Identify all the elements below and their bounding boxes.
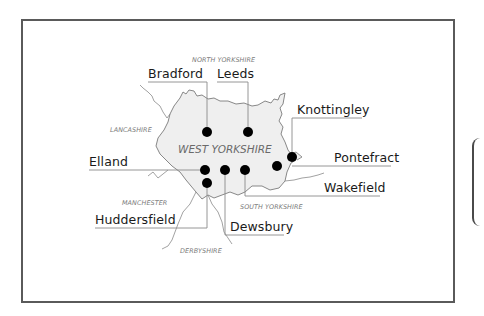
region-label-lancashire: LANCASHIRE (110, 126, 152, 134)
region-label-south-yorkshire: SOUTH YORKSHIRE (240, 203, 303, 211)
region-label-derbyshire: DERBYSHIRE (180, 247, 222, 255)
town-label-pontefract: Pontefract (334, 150, 399, 165)
region-label-manchester: MANCHESTER (122, 199, 167, 207)
town-label-bradford: Bradford (148, 66, 203, 81)
adjacent-panel-edge (472, 138, 484, 226)
town-label-leeds: Leeds (217, 66, 254, 81)
town-label-knottingley: Knottingley (297, 102, 370, 117)
town-label-wakefield: Wakefield (324, 180, 386, 195)
town-label-elland: Elland (89, 154, 128, 169)
town-label-huddersfield: Huddersfield (95, 212, 176, 227)
county-label-west-yorkshire: WEST YORKSHIRE (178, 143, 272, 155)
town-label-dewsbury: Dewsbury (230, 219, 293, 234)
region-label-north-yorkshire: NORTH YORKSHIRE (192, 56, 255, 64)
